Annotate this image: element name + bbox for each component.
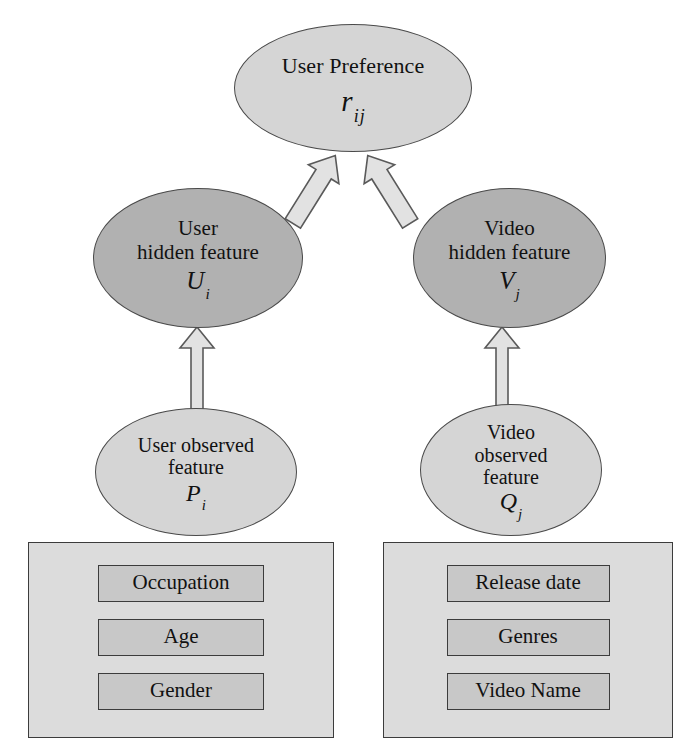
node-video-observed-feature-symbol: Qj (500, 488, 522, 518)
node-video-observed-feature-line-3: feature (483, 466, 539, 488)
attribute-genres[interactable]: Genres (447, 619, 610, 656)
attribute-occupation[interactable]: Occupation (98, 565, 264, 602)
attribute-video-name[interactable]: Video Name (447, 673, 610, 710)
node-video-observed-feature-line-1: Video (487, 421, 535, 443)
node-video-hidden-feature[interactable]: Video hidden feature Vj (413, 188, 606, 328)
node-user-hidden-feature[interactable]: User hidden feature Ui (93, 188, 303, 328)
node-user-hidden-feature-line-2: hidden feature (137, 241, 259, 265)
node-video-hidden-feature-line-2: hidden feature (448, 241, 570, 265)
node-user-observed-feature-symbol: Pi (186, 480, 206, 510)
video-attributes-container: Release date Genres Video Name (383, 542, 673, 738)
node-user-observed-feature[interactable]: User observed feature Pi (95, 408, 297, 536)
node-video-hidden-feature-line-1: Video (484, 217, 535, 241)
attribute-age[interactable]: Age (98, 619, 264, 656)
attribute-gender[interactable]: Gender (98, 673, 264, 710)
node-user-hidden-feature-line-1: User (178, 217, 218, 241)
node-user-preference-symbol: rij (341, 85, 364, 122)
node-user-preference[interactable]: User Preference rij (234, 24, 472, 152)
attribute-release-date[interactable]: Release date (447, 565, 610, 602)
node-user-hidden-feature-symbol: Ui (186, 267, 209, 298)
node-user-observed-feature-line-2: feature (168, 456, 224, 478)
diagram-canvas: User Preference rij User hidden feature … (0, 0, 679, 751)
node-user-preference-line-1: User Preference (282, 54, 425, 79)
node-video-observed-feature[interactable]: Video observed feature Qj (420, 404, 602, 536)
node-user-observed-feature-line-1: User observed (138, 434, 254, 456)
node-video-hidden-feature-symbol: Vj (499, 267, 520, 298)
user-attributes-container: Occupation Age Gender (28, 542, 334, 738)
node-video-observed-feature-line-2: observed (475, 444, 548, 466)
